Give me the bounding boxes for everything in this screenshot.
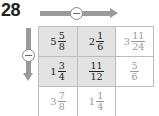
denominator: 12 [89, 72, 103, 82]
minus-icon: − [24, 50, 33, 61]
whole-part: 1 [89, 96, 95, 107]
grid-cell-r0-c0: 5 5 8 [39, 27, 78, 57]
fraction: 11 24 [131, 31, 145, 52]
vertical-minus-operator: − [22, 49, 35, 62]
minus-icon: − [72, 8, 81, 19]
fraction: 7 8 [58, 91, 66, 112]
horizontal-minus-operator: − [70, 7, 83, 20]
mixed-number: 1 1 4 [89, 91, 104, 112]
grid-cell-r2-c2 [116, 87, 154, 116]
fraction: 5 8 [58, 31, 66, 52]
whole-part: 1 [50, 66, 56, 77]
denominator: 6 [96, 42, 104, 52]
denominator: 4 [58, 72, 66, 82]
grid-cell-r2-c0: 3 7 8 [39, 87, 78, 116]
arrow-down-icon [23, 73, 33, 81]
problem-number: 28 [1, 1, 20, 19]
whole-part: 5 [50, 36, 56, 47]
whole-part: 2 [89, 36, 95, 47]
denominator: 4 [96, 102, 104, 112]
mixed-number: 3 11 24 [124, 31, 145, 52]
fraction: 5 6 [130, 61, 138, 82]
mixed-number: 2 1 6 [89, 31, 104, 52]
mixed-number: 1 3 4 [50, 61, 65, 82]
mixed-number: 5 5 8 [50, 31, 65, 52]
denominator: 8 [58, 102, 66, 112]
grid-cell-r0-c2: 3 11 24 [116, 27, 154, 57]
denominator: 24 [131, 42, 145, 52]
denominator: 6 [130, 72, 138, 82]
mixed-number: 3 7 8 [50, 91, 65, 112]
fraction: 3 4 [58, 61, 66, 82]
fraction: 11 12 [89, 61, 103, 82]
fraction-grid: 5 5 8 2 1 6 3 11 24 1 3 [38, 26, 154, 116]
whole-part: 3 [124, 36, 130, 47]
grid-cell-r0-c1: 2 1 6 [78, 27, 116, 57]
grid-cell-r1-c0: 1 3 4 [39, 57, 78, 87]
whole-part: 3 [50, 96, 56, 107]
denominator: 8 [58, 42, 66, 52]
fraction: 1 4 [96, 91, 104, 112]
grid-cell-r1-c2: 5 6 [116, 57, 154, 87]
grid-cell-r2-c1: 1 1 4 [78, 87, 116, 116]
grid-cell-r1-c1: 11 12 [78, 57, 116, 87]
fraction: 1 6 [96, 31, 104, 52]
arrow-right-icon [110, 8, 118, 18]
